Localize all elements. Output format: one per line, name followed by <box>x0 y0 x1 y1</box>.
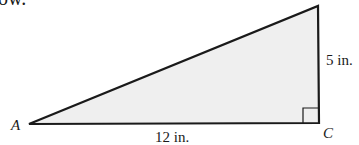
triangle-shape <box>29 6 319 124</box>
triangle-figure <box>0 0 359 145</box>
side-label-bc: 5 in. <box>326 52 353 68</box>
side-label-ac: 12 in. <box>155 129 189 145</box>
vertex-label-c: C <box>323 125 333 141</box>
vertex-label-a: A <box>11 117 20 133</box>
